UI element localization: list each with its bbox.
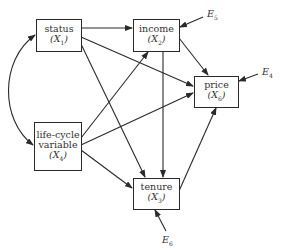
arrow-e6-tenure bbox=[155, 210, 166, 231]
arrow-income-price bbox=[179, 38, 208, 75]
error-term-e5: E5 bbox=[207, 8, 218, 21]
node-price: price (X6) bbox=[194, 76, 239, 108]
node-variable: (X3) bbox=[147, 192, 165, 206]
arrow-e5-income bbox=[180, 17, 203, 27]
arrow-status-lifecycle-correlation bbox=[8, 35, 35, 145]
node-variable: (X2) bbox=[147, 34, 165, 48]
node-variable: (X4) bbox=[49, 150, 67, 164]
node-variable: (X1) bbox=[50, 34, 68, 48]
node-income: income (X2) bbox=[133, 19, 180, 52]
node-status: status (X1) bbox=[36, 19, 82, 52]
node-variable: (X6) bbox=[207, 90, 225, 104]
arrow-e4-price bbox=[239, 74, 258, 81]
error-term-e4: E4 bbox=[262, 66, 273, 79]
arrow-lifecycle-price bbox=[81, 93, 193, 145]
error-term-e6: E6 bbox=[162, 234, 173, 247]
arrow-tenure-price bbox=[179, 108, 216, 191]
arrow-lifecycle-tenure bbox=[81, 150, 132, 188]
node-tenure: tenure (X3) bbox=[133, 178, 180, 210]
node-lifecycle: life-cycle variable (X4) bbox=[34, 122, 82, 171]
